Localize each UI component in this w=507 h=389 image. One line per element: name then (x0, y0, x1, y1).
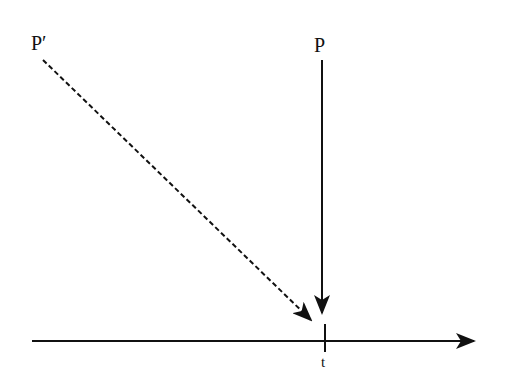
label-p: P (314, 35, 325, 55)
dashed-arrow-p-prime (43, 60, 311, 320)
diagram-canvas (0, 0, 507, 389)
label-p-prime: P′ (31, 33, 47, 53)
label-t: t (321, 355, 325, 370)
